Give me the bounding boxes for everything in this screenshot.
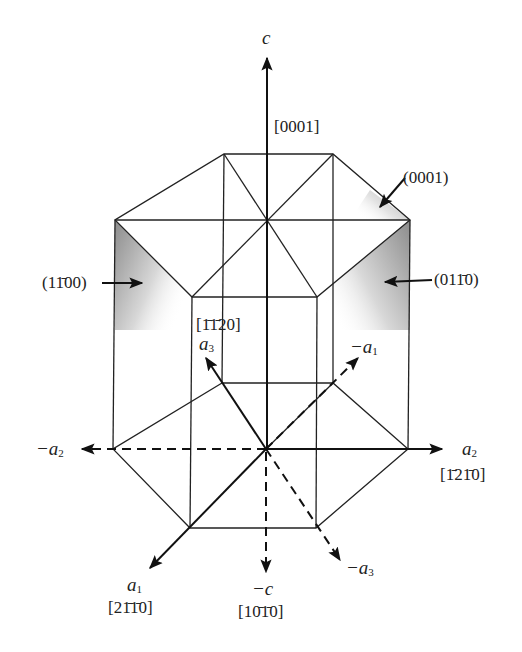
a3-direction: [1̄1̄20] [196,315,241,334]
a2-direction: [1̄21̄0] [440,465,485,484]
minus-a1-label: −a1 [350,336,378,357]
a2-label: a2 [462,438,477,459]
minus-a2-label: −a2 [36,438,64,459]
a3-axis [206,358,266,449]
minus-a3-axis [266,449,340,560]
minus-c-label: −c [252,578,274,599]
a3-label: a3 [199,333,215,354]
c-label: c [262,27,271,48]
minus-a1-axis [266,358,358,449]
a1-direction: [21̄1̄0] [108,598,153,617]
a1-axis [150,449,266,568]
left-prism-shade [115,220,192,330]
basal-plane-label: (0001) [403,168,448,187]
a1-label: a1 [127,574,142,595]
prism-right-label: (011̄0) [434,270,479,289]
minus-c-direction: [10̄1̄0] [238,602,283,621]
hcp-diagram: c [0001] (0001) (011̄0) (11̄00) [1̄1̄20]… [0,0,522,652]
pointer-0001 [380,178,405,207]
right-prism-shade [317,220,410,330]
minus-a3-label: −a3 [346,557,374,578]
prism-left-label: (11̄00) [42,273,87,292]
c-direction: [0001] [274,117,319,136]
